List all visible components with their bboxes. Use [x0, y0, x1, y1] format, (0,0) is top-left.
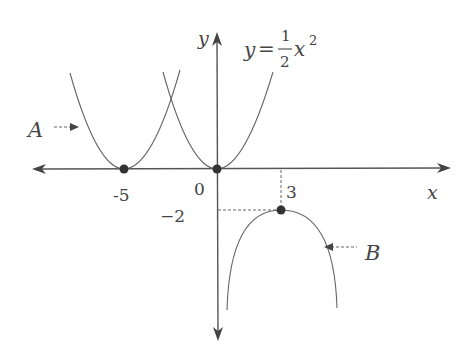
x-axis-label: x	[427, 181, 438, 203]
label-A-arrowhead-icon	[70, 123, 79, 131]
tick-label-zero: 0	[194, 179, 205, 199]
equation-var: x	[294, 37, 305, 61]
curve-label-B: B	[364, 241, 380, 265]
equation-equals: =	[258, 37, 275, 61]
tick-label-neg-two: −2	[160, 206, 185, 226]
curve-label-A: A	[26, 118, 43, 142]
parabola-B	[227, 210, 337, 310]
y-axis	[212, 32, 223, 341]
equation-denominator: 2	[280, 53, 290, 71]
tick-label-neg-five: -5	[113, 185, 130, 205]
parabola-transformation-diagram: y x -5 0 3 −2 A B y = 1 2 x 2	[0, 0, 470, 357]
equation-lhs: y	[243, 38, 256, 62]
point-vertex-A	[120, 165, 129, 174]
point-vertex-B	[277, 206, 286, 215]
parabola-A	[70, 70, 180, 169]
point-origin	[213, 165, 222, 174]
equation-exponent: 2	[309, 33, 317, 48]
equation-label: y = 1 2 x 2	[243, 27, 317, 71]
y-axis-label: y	[197, 27, 209, 49]
equation-numerator: 1	[281, 27, 291, 45]
tick-label-three: 3	[286, 182, 297, 202]
x-axis	[32, 163, 451, 174]
